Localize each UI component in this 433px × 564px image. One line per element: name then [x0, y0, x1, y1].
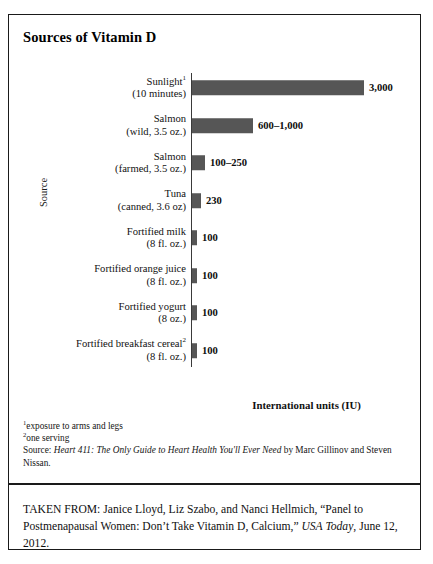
bar-category-label: Salmon(wild, 3.5 oz.): [26, 113, 186, 138]
bar-value-label: 100: [202, 232, 218, 243]
x-axis-title: International units (IU): [191, 399, 422, 411]
bar-category-footnote-marker: 1: [183, 74, 187, 82]
bar-category-line1: Fortified breakfast cereal: [76, 338, 182, 349]
bar-category-line2: (8 fl. oz.): [26, 350, 186, 362]
bar-category-line2: (10 minutes): [26, 88, 186, 100]
bar-with-value: 230: [192, 182, 222, 220]
bar-category-label: Salmon(farmed, 3.5 oz.): [26, 150, 186, 175]
bar: [192, 118, 253, 133]
footnotes: 1exposure to arms and legs 2one serving …: [23, 420, 408, 469]
bar-category-line1: Tuna: [165, 188, 186, 199]
bar-category-line2: (8 fl. oz.): [26, 238, 186, 250]
source-prefix: Source:: [23, 445, 54, 455]
bar-category-line2: (8 fl. oz.): [26, 275, 186, 287]
bar: [192, 343, 197, 358]
bar-value-label: 230: [206, 195, 222, 206]
footnote-2-text: one serving: [26, 433, 69, 443]
source-line: Source: Heart 411: The Only Guide to Hea…: [23, 444, 408, 468]
bar: [192, 230, 197, 245]
bar-with-value: 100–250: [192, 144, 247, 182]
bar-row: Fortified yogurt(8 oz.)100: [9, 294, 422, 332]
bar-value-label: 100: [202, 270, 218, 281]
bar-rows: Sunlight1(10 minutes)3,000Salmon(wild, 3…: [9, 69, 422, 369]
source-title: Heart 411: The Only Guide to Heart Healt…: [54, 445, 282, 455]
bar-category-label: Fortified orange juice(8 fl. oz.): [26, 263, 186, 288]
footnote-2: 2one serving: [23, 432, 408, 444]
bar-with-value: 100: [192, 332, 218, 370]
bar-category-line2: (canned, 3.6 oz): [26, 200, 186, 212]
bar-category-line2: (wild, 3.5 oz.): [26, 125, 186, 137]
taken-from-block: TAKEN FROM: Janice Lloyd, Liz Szabo, and…: [23, 501, 405, 552]
bar-category-line1: Salmon: [154, 113, 186, 124]
bar-category-line1: Fortified milk: [127, 225, 186, 236]
taken-from-publication: USA Today: [301, 520, 353, 533]
bar: [192, 193, 201, 208]
bar-category-line1: Fortified yogurt: [119, 300, 186, 311]
section-divider: [9, 483, 420, 485]
bar-row: Fortified milk(8 fl. oz.)100: [9, 219, 422, 257]
bar-row: Fortified orange juice(8 fl. oz.)100: [9, 257, 422, 295]
bar-value-label: 3,000: [369, 82, 393, 93]
footnote-1: 1exposure to arms and legs: [23, 420, 408, 432]
bar-row: Tuna(canned, 3.6 oz)230: [9, 182, 422, 220]
bar-with-value: 600–1,000: [192, 107, 303, 145]
bar-category-label: Sunlight1(10 minutes): [26, 75, 186, 100]
bar-value-label: 100: [202, 345, 218, 356]
bar-row: Sunlight1(10 minutes)3,000: [9, 69, 422, 107]
chart-panel: Sources of Vitamin D Source Sunlight1(10…: [9, 15, 420, 483]
bar-category-label: Tuna(canned, 3.6 oz): [26, 188, 186, 213]
bar-with-value: 3,000: [192, 69, 393, 107]
bar-with-value: 100: [192, 294, 218, 332]
bar-category-line2: (farmed, 3.5 oz.): [26, 163, 186, 175]
bar: [192, 305, 197, 320]
bar-row: Salmon(wild, 3.5 oz.)600–1,000: [9, 107, 422, 145]
plot-area: Source Sunlight1(10 minutes)3,000Salmon(…: [9, 69, 422, 369]
bar-category-line2: (8 oz.): [26, 313, 186, 325]
bar: [192, 268, 197, 283]
bar-value-label: 100–250: [210, 157, 247, 168]
bar-row: Fortified breakfast cereal2(8 fl. oz.)10…: [9, 332, 422, 370]
bar-value-label: 600–1,000: [258, 120, 303, 131]
bar-row: Salmon(farmed, 3.5 oz.)100–250: [9, 144, 422, 182]
bar: [192, 155, 205, 170]
bar-category-line1: Sunlight: [147, 75, 183, 86]
bar: [192, 80, 364, 95]
bar-category-label: Fortified milk(8 fl. oz.): [26, 225, 186, 250]
bar-category-line1: Salmon: [154, 150, 186, 161]
figure-frame: Sources of Vitamin D Source Sunlight1(10…: [8, 14, 421, 550]
bar-with-value: 100: [192, 257, 218, 295]
bar-value-label: 100: [202, 307, 218, 318]
footnote-1-text: exposure to arms and legs: [26, 421, 123, 431]
bar-category-line1: Fortified orange juice: [94, 263, 186, 274]
bar-category-footnote-marker: 2: [183, 336, 187, 344]
chart-title: Sources of Vitamin D: [23, 29, 156, 46]
bar-category-label: Fortified yogurt(8 oz.): [26, 300, 186, 325]
bar-category-label: Fortified breakfast cereal2(8 fl. oz.): [26, 338, 186, 363]
bar-with-value: 100: [192, 219, 218, 257]
